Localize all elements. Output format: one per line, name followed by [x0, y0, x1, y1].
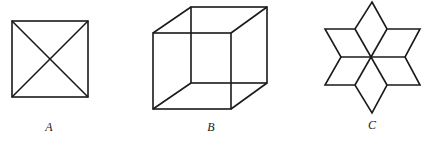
- figure-a-square-with-diagonals: [12, 21, 88, 97]
- figure-c-label: C: [368, 118, 376, 133]
- figures-canvas: [0, 0, 431, 143]
- figure-a-label: A: [45, 120, 52, 135]
- figure-c-rhombus-star: [325, 2, 420, 113]
- figure-b-label: B: [207, 120, 214, 135]
- figure-b-wireframe-cube: [153, 7, 267, 109]
